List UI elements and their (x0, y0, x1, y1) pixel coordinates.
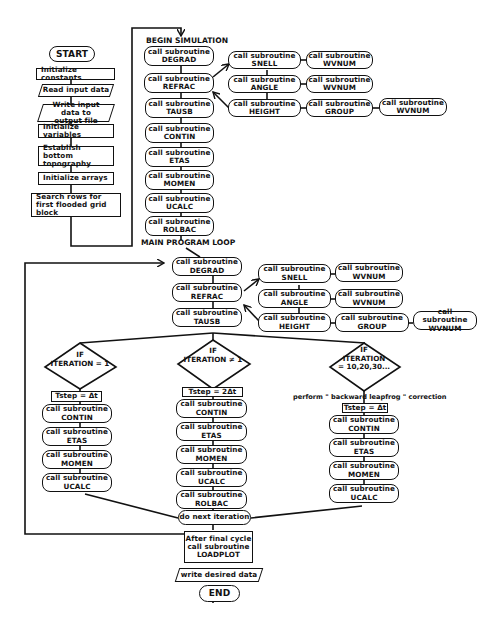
step-write-input: Write input data to output file (40, 104, 112, 122)
branch2-tstep: Tstep = 2Δt (182, 387, 243, 397)
subroutine-name: WVNUM (323, 84, 356, 92)
branch1-sub-etas: call subroutineETAS (42, 427, 112, 446)
if-label: IF (50, 350, 110, 359)
subroutine-name: GROUP (325, 108, 354, 116)
branch2-sub-contin: call subroutineCONTIN (176, 399, 247, 418)
begin-sub-momen: call subroutineMOMEN (145, 170, 214, 190)
subroutine-name: ANGLE (281, 299, 308, 307)
begin-sub-etas: call subroutineETAS (145, 147, 214, 167)
subroutine-name: HEIGHT (279, 323, 310, 331)
subroutine-name: SNELL (282, 274, 308, 282)
begin-simulation-heading: BEGIN SIMULATION (146, 36, 228, 45)
if-label: IF (183, 346, 243, 355)
step-initialize-constants: Initialize constants (36, 68, 115, 80)
subroutine-name: WVNUM (353, 299, 386, 307)
step-initialize-variables: Initialize variables (38, 124, 114, 138)
branch3-sub-ucalc: call subroutineUCALC (329, 484, 399, 503)
subroutine-name: UCALC (198, 478, 225, 486)
step-read-input: Read input data (40, 84, 112, 97)
branch3-tstep: Tstep = Δt (342, 403, 388, 413)
start-terminal: START (49, 46, 95, 62)
main-sub-angle-wvnum: call subroutineWVNUM (335, 289, 403, 308)
branch2-sub-momen: call subroutineMOMEN (176, 445, 247, 464)
subroutine-name: ANGLE (251, 84, 278, 92)
subroutine-name: WVNUM (429, 325, 462, 333)
flowchart: START Initialize constants Read input da… (0, 0, 498, 623)
step-label: Initialize constants (41, 66, 114, 82)
subroutine-name: UCALC (63, 483, 90, 491)
subroutine-name: HEIGHT (249, 108, 280, 116)
main-sub-degrad: call subroutineDEGRAD (172, 257, 242, 276)
begin-sub-group-wvnum: call subroutineWVNUM (379, 98, 447, 116)
condition-label: = 10,20,30... (334, 363, 394, 372)
begin-sub-ucalc: call subroutineUCALC (145, 193, 214, 213)
tstep-label: Tstep = Δt (344, 404, 387, 412)
tstep-label: Tstep = Δt (55, 392, 98, 400)
branch2-sub-ucalc: call subroutineUCALC (176, 468, 247, 487)
write-desired-data: write desired data (177, 568, 261, 582)
branch3-sub-etas: call subroutineETAS (329, 438, 399, 457)
subroutine-name: MOMEN (61, 460, 93, 468)
begin-sub-rolbac: call subroutineROLBAC (145, 216, 214, 236)
step-search-rows: Search rows for first flooded grid block (31, 193, 121, 217)
begin-sub-snell-wvnum: call subroutineWVNUM (306, 51, 373, 69)
final-line: LOADPLOT (197, 551, 240, 559)
subroutine-name: REFRAC (191, 293, 223, 301)
step-label: Read input data (43, 86, 109, 94)
subroutine-name: ROLBAC (195, 500, 228, 508)
begin-sub-contin: call subroutineCONTIN (145, 123, 214, 143)
begin-sub-group: call subroutineGROUP (306, 99, 373, 117)
subroutine-name: CONTIN (196, 409, 228, 417)
branch2-sub-etas: call subroutineETAS (176, 422, 247, 441)
main-sub-group-wvnum: call subroutineWVNUM (413, 311, 477, 330)
subroutine-name: CONTIN (61, 414, 93, 422)
branch2-sub-rolbac: call subroutineROLBAC (176, 490, 247, 509)
step-label: Search rows for first flooded grid block (36, 193, 112, 218)
step-initialize-arrays: Initialize arrays (38, 172, 114, 185)
next-iteration-label: do next iteration (180, 513, 250, 521)
decision-iteration-multiple-10: IFITERATION= 10,20,30... (334, 346, 394, 372)
subroutine-name: WVNUM (353, 273, 386, 281)
main-sub-group: call subroutineGROUP (335, 313, 409, 332)
begin-sub-refrac: call subroutineREFRAC (144, 73, 214, 93)
subroutine-name: TAUSB (194, 318, 221, 326)
branch1-sub-contin: call subroutineCONTIN (42, 404, 112, 423)
step-establish-topography: Establish bottom topography (38, 146, 114, 166)
subroutine-name: ETAS (67, 437, 87, 445)
subroutine-name: REFRAC (163, 83, 195, 91)
subroutine-name: MOMEN (164, 180, 196, 188)
subroutine-name: UCALC (166, 203, 193, 211)
main-sub-snell-wvnum: call subroutineWVNUM (335, 263, 403, 282)
main-sub-tausb: call subroutineTAUSB (172, 308, 242, 327)
branch1-sub-momen: call subroutineMOMEN (42, 450, 112, 469)
condition-label: ITERATION = 1 (50, 359, 110, 368)
branch3-sub-momen: call subroutineMOMEN (329, 461, 399, 480)
decision-iteration-eq-1: IFITERATION = 1 (50, 350, 110, 368)
backward-leapfrog-note: perform " backward leapfrog " correction (293, 393, 447, 401)
main-sub-angle: call subroutineANGLE (258, 289, 331, 308)
begin-sub-height: call subroutineHEIGHT (228, 99, 301, 117)
begin-sub-angle: call subroutineANGLE (228, 75, 301, 93)
subroutine-name: SNELL (252, 60, 278, 68)
branch3-sub-contin: call subroutineCONTIN (329, 415, 399, 434)
subroutine-name: WVNUM (323, 60, 356, 68)
subroutine-name: ROLBAC (163, 226, 196, 234)
branch1-tstep: Tstep = Δt (51, 391, 102, 402)
subroutine-name: CONTIN (164, 133, 196, 141)
subroutine-name: DEGRAD (162, 56, 196, 64)
subroutine-name: CONTIN (348, 425, 380, 433)
subroutine-name: ETAS (354, 448, 374, 456)
begin-sub-angle-wvnum: call subroutineWVNUM (306, 75, 373, 93)
condition-label: ITERATION ≠ 1 (183, 355, 243, 364)
begin-sub-tausb: call subroutineTAUSB (145, 98, 214, 118)
write-label: write desired data (181, 571, 257, 579)
main-loop-heading: MAIN PROGRAM LOOP (141, 238, 235, 247)
subroutine-name: UCALC (350, 494, 377, 502)
subroutine-name: MOMEN (348, 471, 380, 479)
main-sub-refrac: call subroutineREFRAC (172, 283, 242, 302)
start-label: START (56, 50, 88, 58)
subroutine-name: ETAS (201, 432, 221, 440)
subroutine-name: ETAS (169, 157, 189, 165)
final-cycle-loadplot: After final cyclecall subroutineLOADPLOT (184, 531, 253, 563)
step-label: Initialize arrays (43, 174, 108, 182)
